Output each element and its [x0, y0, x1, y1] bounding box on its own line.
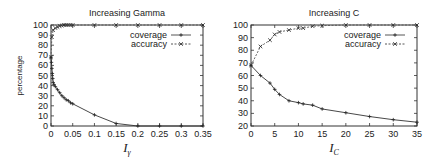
plus-marker-icon [93, 113, 97, 117]
x-tick-label: 10 [293, 129, 303, 139]
y-tick-label: 70 [38, 50, 48, 60]
x-tick-label: 0.25 [151, 129, 169, 139]
plus-marker-icon [368, 115, 372, 119]
cross-marker-icon [273, 33, 277, 37]
chart-title: Increasing C [309, 8, 360, 18]
x-tick-label: 0 [248, 129, 253, 139]
chart-c: Increasing C2030405060708090100051015202… [233, 8, 422, 157]
y-axis-label: percentage [15, 55, 24, 96]
x-tick-label: 20 [341, 129, 351, 139]
plus-marker-icon [179, 33, 183, 37]
series-accuracy-line [51, 25, 203, 57]
x-tick-label: 30 [388, 129, 398, 139]
y-tick-label: 80 [238, 45, 248, 55]
x-tick-label: 5 [272, 129, 277, 139]
chart-title: Increasing Gamma [89, 8, 165, 18]
y-tick-label: 20 [238, 121, 248, 131]
y-tick-label: 40 [38, 81, 48, 91]
legend-label-accuracy: accuracy [131, 39, 168, 49]
y-tick-label: 50 [238, 83, 248, 93]
x-tick-label: 0.05 [64, 129, 82, 139]
y-tick-label: 40 [238, 96, 248, 106]
cross-marker-icon [259, 45, 263, 49]
legend-label-accuracy: accuracy [345, 39, 382, 49]
plus-marker-icon [201, 124, 205, 128]
y-tick-label: 70 [238, 58, 248, 68]
x-tick-label: 0.2 [132, 129, 145, 139]
x-axis-label: Iγ [122, 140, 131, 157]
plot-frame [51, 25, 203, 126]
chart-figure: Increasing Gamma010203040506070809010000… [0, 0, 432, 160]
plus-marker-icon [391, 118, 395, 122]
y-tick-label: 80 [38, 40, 48, 50]
legend: coverageaccuracy [344, 30, 405, 49]
y-tick-label: 30 [238, 108, 248, 118]
plus-marker-icon [50, 61, 54, 65]
y-tick-label: 60 [238, 71, 248, 81]
y-tick-label: 100 [233, 20, 248, 30]
y-tick-label: 50 [38, 71, 48, 81]
series-coverage-line [251, 65, 417, 122]
x-tick-label: 0.35 [194, 129, 212, 139]
plus-marker-icon [320, 107, 324, 111]
legend: coverageaccuracy [130, 30, 191, 49]
y-tick-label: 30 [38, 91, 48, 101]
cross-marker-icon [268, 38, 272, 42]
plus-marker-icon [415, 120, 419, 124]
y-tick-label: 90 [238, 33, 248, 43]
x-tick-label: 0.3 [175, 129, 188, 139]
plus-marker-icon [179, 124, 183, 128]
y-tick-label: 10 [38, 111, 48, 121]
x-tick-label: 0 [48, 129, 53, 139]
chart-gamma: Increasing Gamma010203040506070809010000… [15, 8, 212, 157]
plus-marker-icon [393, 33, 397, 37]
y-tick-label: 0 [43, 121, 48, 131]
y-tick-label: 100 [33, 20, 48, 30]
plus-marker-icon [301, 102, 305, 106]
plus-marker-icon [297, 101, 301, 105]
plus-marker-icon [114, 122, 118, 126]
x-tick-label: 0.1 [88, 129, 101, 139]
series-coverage-line [51, 57, 203, 126]
x-tick-label: 0.15 [107, 129, 125, 139]
plus-marker-icon [158, 124, 162, 128]
x-axis-label: IC [328, 140, 339, 157]
y-tick-label: 90 [38, 30, 48, 40]
plus-marker-icon [311, 103, 315, 107]
plus-marker-icon [136, 124, 140, 128]
x-tick-label: 15 [317, 129, 327, 139]
plus-marker-icon [344, 111, 348, 115]
y-tick-label: 20 [38, 101, 48, 111]
series-accuracy-line [251, 25, 417, 65]
y-tick-label: 60 [38, 60, 48, 70]
x-tick-label: 35 [412, 129, 422, 139]
x-tick-label: 25 [365, 129, 375, 139]
